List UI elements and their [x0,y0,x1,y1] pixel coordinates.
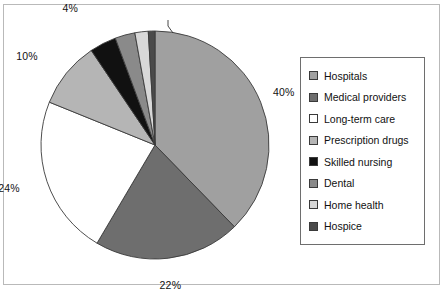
legend-item[interactable]: Skilled nursing [309,151,418,173]
legend-item-label: Hospice [324,221,362,232]
legend-item-label: Skilled nursing [324,157,392,168]
legend-item[interactable]: Hospitals [309,65,418,87]
pie-chart-figure: 40%22%24%10%4%3%2%1% HospitalsMedical pr… [0,0,444,290]
legend-item[interactable]: Prescription drugs [309,130,418,152]
legend-swatch-icon [309,71,318,80]
pie-percent-label: 24% [0,182,20,194]
chart-legend: HospitalsMedical providersLong-term care… [300,57,425,245]
legend-swatch-icon [309,93,318,102]
legend-item-label: Prescription drugs [324,135,409,146]
pie-slice-group [41,31,269,259]
legend-swatch-icon [309,157,318,166]
legend-item[interactable]: Hospice [309,216,418,238]
pie-percent-label: 4% [63,2,79,14]
pie-svg [40,30,270,260]
legend-item-label: Long-term care [324,114,395,125]
pie-percent-label: 10% [16,50,38,62]
pie-plot-area [40,30,270,260]
legend-item[interactable]: Long-term care [309,108,418,130]
legend-item[interactable]: Medical providers [309,87,418,109]
pie-percent-label: 40% [273,86,295,98]
legend-item-label: Medical providers [324,92,406,103]
legend-swatch-icon [309,200,318,209]
legend-swatch-icon [309,114,318,123]
legend-item-label: Home health [324,200,384,211]
legend-item-label: Dental [324,178,354,189]
legend-item[interactable]: Home health [309,194,418,216]
legend-swatch-icon [309,136,318,145]
legend-swatch-icon [309,179,318,188]
legend-swatch-icon [309,222,318,231]
pie-percent-label: 22% [160,279,182,290]
legend-item[interactable]: Dental [309,173,418,195]
legend-item-label: Hospitals [324,71,367,82]
